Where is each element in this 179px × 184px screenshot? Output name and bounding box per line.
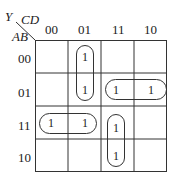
row-vars-label: AB	[12, 30, 28, 43]
row-header: 10	[18, 151, 31, 164]
col-vars-label: CD	[21, 13, 39, 26]
cell-00-01: 1	[80, 51, 90, 63]
cell-11-11: 1	[111, 122, 121, 134]
output-var-label: Y	[5, 10, 12, 23]
row-header: 11	[18, 119, 31, 132]
row-header: 01	[18, 86, 31, 99]
cell-11-00: 1	[46, 117, 56, 129]
col-header: 00	[45, 23, 58, 36]
row-header: 00	[18, 52, 31, 65]
cell-10-11: 1	[111, 150, 121, 162]
cell-01-01: 1	[80, 84, 90, 96]
cell-01-11: 1	[111, 84, 121, 96]
col-header: 01	[78, 23, 91, 36]
cell-11-01: 1	[80, 117, 90, 129]
cell-01-10: 1	[146, 84, 156, 96]
col-header: 10	[144, 23, 157, 36]
col-header: 11	[112, 23, 125, 36]
